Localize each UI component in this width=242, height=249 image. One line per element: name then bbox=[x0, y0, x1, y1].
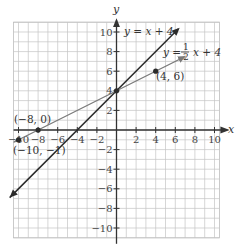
svg-text:6: 6 bbox=[106, 66, 112, 77]
x-axis-label: x bbox=[228, 123, 235, 136]
point-marker bbox=[36, 127, 41, 132]
svg-text:−6: −6 bbox=[98, 183, 113, 194]
svg-text:2: 2 bbox=[183, 52, 189, 62]
svg-text:10: 10 bbox=[100, 27, 113, 38]
point-label-neg10-neg1: (−10, −1) bbox=[13, 144, 66, 156]
svg-text:−2: −2 bbox=[98, 144, 113, 155]
svg-text:2: 2 bbox=[133, 134, 139, 145]
point-label-neg8-0: (−8, 0) bbox=[14, 113, 51, 125]
svg-text:8: 8 bbox=[192, 134, 198, 145]
point-marker bbox=[114, 88, 119, 93]
svg-text:2: 2 bbox=[106, 105, 112, 116]
svg-text:−8: −8 bbox=[98, 203, 113, 214]
point-marker bbox=[16, 137, 21, 142]
svg-text:1: 1 bbox=[183, 42, 189, 52]
svg-text:10: 10 bbox=[208, 134, 221, 145]
svg-text:6: 6 bbox=[172, 134, 178, 145]
svg-text:−10: −10 bbox=[91, 223, 112, 234]
svg-text:x + 4: x + 4 bbox=[193, 46, 221, 58]
equation-label-line1: y = x + 4 bbox=[123, 25, 173, 37]
y-axis-label: y bbox=[112, 3, 120, 16]
svg-text:4: 4 bbox=[153, 134, 159, 145]
point-label-4-6: (4, 6) bbox=[156, 70, 184, 82]
equation-label-line2: y = 1 2 x + 4 bbox=[162, 42, 221, 62]
coordinate-plane: −10−8−6−4−2246810108642−2−4−6−8−10 y x y… bbox=[0, 0, 242, 249]
svg-text:8: 8 bbox=[106, 46, 112, 57]
svg-text:−4: −4 bbox=[98, 164, 113, 175]
svg-text:y =: y = bbox=[162, 46, 181, 58]
